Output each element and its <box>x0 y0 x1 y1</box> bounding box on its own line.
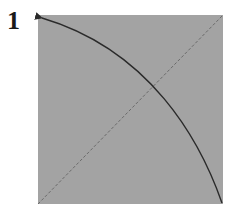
figure-diagram <box>0 0 232 213</box>
